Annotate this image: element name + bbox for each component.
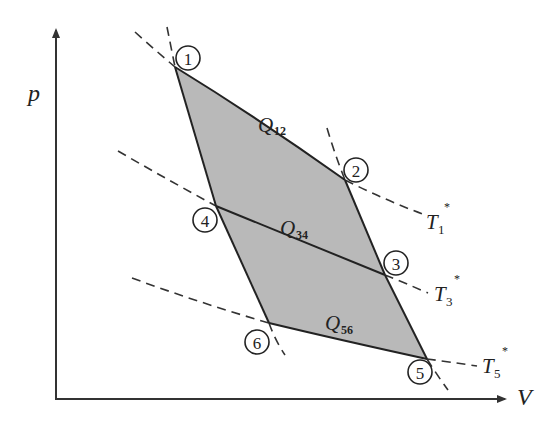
point-6: 6 [245, 330, 269, 354]
svg-text:2: 2 [352, 162, 361, 181]
svg-text:5: 5 [494, 366, 501, 381]
svg-text:12: 12 [274, 124, 286, 138]
svg-text:56: 56 [341, 323, 353, 337]
svg-text:*: * [502, 344, 508, 358]
adiabat-curve-1-top [167, 27, 175, 67]
svg-text:34: 34 [296, 228, 308, 242]
isotherm-curve-T5 [427, 359, 477, 366]
pv-diagram: p V 1 2 3 4 5 6 Q 12 Q 34 Q 56 T 1 * [0, 0, 556, 429]
p-axis-label: p [26, 80, 40, 106]
v-axis-label: V [517, 384, 534, 410]
point-2: 2 [344, 158, 368, 182]
point-4: 4 [193, 208, 217, 232]
svg-text:4: 4 [201, 212, 210, 231]
point-1: 1 [176, 46, 200, 70]
isotherm-label-t5: T 5 * [482, 344, 508, 381]
isotherm-label-t3: T 3 * [434, 272, 460, 309]
svg-text:1: 1 [438, 222, 445, 237]
point-3: 3 [384, 251, 408, 275]
heat-label-q12: Q 12 [258, 113, 286, 138]
svg-text:*: * [454, 272, 460, 286]
adiabat-curve-6-bottom [269, 323, 285, 355]
svg-text:*: * [444, 200, 450, 214]
svg-text:6: 6 [253, 334, 262, 353]
isotherm-label-t1: T 1 * [426, 200, 450, 237]
isotherm-curve-1-left [135, 32, 175, 67]
svg-text:Q: Q [280, 216, 295, 240]
svg-text:5: 5 [416, 364, 425, 383]
point-5: 5 [408, 360, 432, 384]
svg-text:Q: Q [325, 311, 340, 335]
svg-text:3: 3 [392, 255, 401, 274]
svg-text:3: 3 [446, 294, 453, 309]
isotherm-curve-6-left [132, 278, 269, 323]
svg-text:1: 1 [184, 50, 193, 69]
svg-text:Q: Q [258, 113, 273, 137]
